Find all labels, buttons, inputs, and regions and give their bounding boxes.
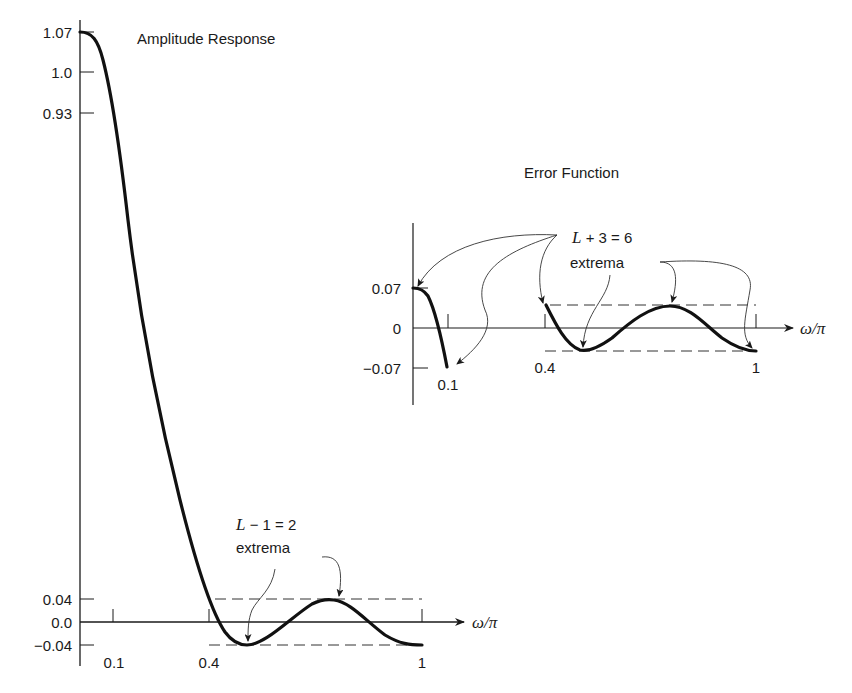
amp-xlabel: ω/π bbox=[472, 613, 498, 632]
err-annotation: L + 3 = 6 extrema bbox=[418, 228, 752, 364]
amp-ytick-1.07: 1.07 bbox=[43, 24, 72, 41]
err-ytick-0.07: 0.07 bbox=[372, 280, 401, 297]
amp-ytick-0.93: 0.93 bbox=[43, 105, 72, 122]
amplitude-title: Amplitude Response bbox=[137, 30, 275, 47]
amplitude-response-chart: Amplitude Response 1.07 1.0 0.93 0.04 0.… bbox=[34, 20, 498, 671]
amp-annot-extrema: extrema bbox=[236, 539, 291, 556]
err-xtick-0.1: 0.1 bbox=[438, 376, 459, 393]
err-xtick-0.4: 0.4 bbox=[535, 359, 556, 376]
annot-arrow-err-3 bbox=[540, 235, 557, 303]
annot-arrow-min bbox=[248, 569, 275, 641]
svg-text:L + 3 = 6: L + 3 = 6 bbox=[571, 228, 632, 247]
amp-ytick-1.0: 1.0 bbox=[51, 64, 72, 81]
error-title: Error Function bbox=[524, 164, 619, 181]
annot-arrow-max bbox=[322, 557, 341, 596]
err-ytick-0: 0 bbox=[393, 320, 401, 337]
amp-xtick-0.4: 0.4 bbox=[199, 654, 220, 671]
err-xlabel: ω/π bbox=[800, 319, 826, 338]
amp-ytick-0.04: 0.04 bbox=[43, 591, 72, 608]
error-function-chart: Error Function 0.07 0 −0.07 ω/π 0.1 0.4 … bbox=[363, 164, 826, 405]
amp-ytick-neg0.04: −0.04 bbox=[34, 637, 72, 654]
amp-xtick-0.1: 0.1 bbox=[104, 654, 125, 671]
amp-xtick-1: 1 bbox=[418, 654, 426, 671]
figure: Amplitude Response 1.07 1.0 0.93 0.04 0.… bbox=[0, 0, 852, 693]
annot-arrow-err-6 bbox=[660, 261, 752, 348]
err-xtick-1: 1 bbox=[752, 359, 760, 376]
err-ytick-neg0.07: −0.07 bbox=[363, 360, 401, 377]
annot-arrow-err-5 bbox=[660, 262, 676, 302]
err-annot-extrema: extrema bbox=[570, 254, 625, 271]
svg-text:L − 1 = 2: L − 1 = 2 bbox=[235, 515, 296, 534]
annot-arrow-err-4 bbox=[583, 275, 610, 347]
amp-ytick-0.0: 0.0 bbox=[51, 614, 72, 631]
